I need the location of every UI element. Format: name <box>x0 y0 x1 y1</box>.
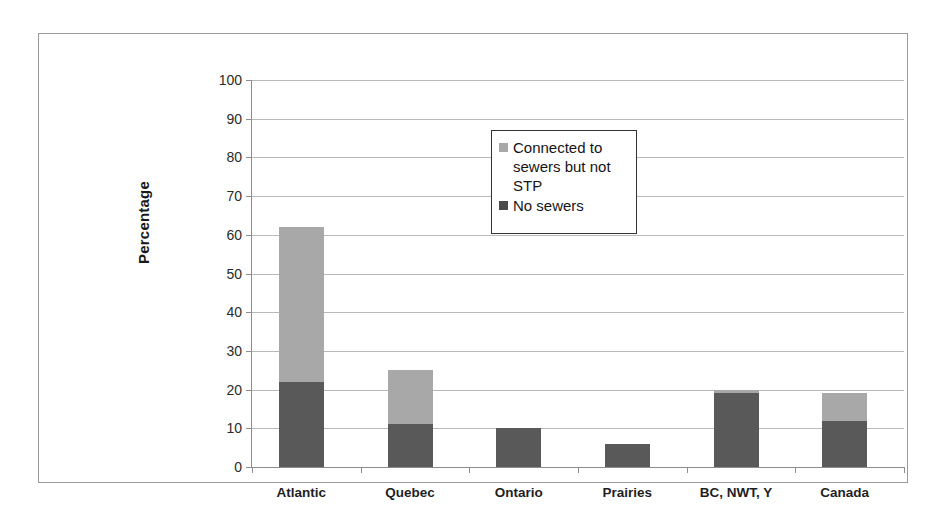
y-tick-label: 40 <box>226 304 242 320</box>
bar-segment-connected-no-stp <box>822 393 867 420</box>
legend-swatch-light-icon <box>499 143 508 152</box>
y-tick-mark <box>246 351 252 352</box>
y-tick-mark <box>246 80 252 81</box>
bar-segment-no-sewers <box>388 424 433 467</box>
y-tick-mark <box>246 274 252 275</box>
y-tick-label: 60 <box>226 227 242 243</box>
x-tick-mark <box>469 467 470 473</box>
y-tick-label: 80 <box>226 149 242 165</box>
bar-segment-no-sewers <box>822 421 867 467</box>
bar-segment-connected-no-stp <box>714 390 759 394</box>
bar-bc-nwt-y <box>714 80 759 467</box>
y-tick-mark <box>246 157 252 158</box>
gridline <box>252 428 904 429</box>
x-tick-label: Atlantic <box>277 485 327 500</box>
x-tick-label: BC, NWT, Y <box>700 485 773 500</box>
y-tick-mark <box>246 235 252 236</box>
gridline <box>252 119 904 120</box>
x-tick-label: Ontario <box>495 485 543 500</box>
gridline <box>252 274 904 275</box>
gridline <box>252 235 904 236</box>
x-tick-mark <box>687 467 688 473</box>
gridline <box>252 390 904 391</box>
legend-entry: No sewers <box>499 196 630 215</box>
gridline <box>252 312 904 313</box>
bar-segment-no-sewers <box>279 382 324 467</box>
legend-swatch-dark-icon <box>499 201 508 210</box>
y-tick-label: 10 <box>226 420 242 436</box>
y-tick-label: 70 <box>226 188 242 204</box>
legend-entry: Connected to sewers but not STP <box>499 138 630 195</box>
chart-legend: Connected to sewers but not STPNo sewers <box>491 130 637 234</box>
bar-segment-connected-no-stp <box>279 227 324 382</box>
x-tick-mark <box>361 467 362 473</box>
bar-segment-no-sewers <box>714 393 759 467</box>
x-tick-mark <box>252 467 253 473</box>
bar-canada <box>822 80 867 467</box>
y-tick-mark <box>246 196 252 197</box>
y-tick-mark <box>246 119 252 120</box>
y-tick-mark <box>246 428 252 429</box>
bar-quebec <box>388 80 433 467</box>
chart-frame: Percentage 1009080706050403020100 Atlant… <box>38 33 908 483</box>
x-tick-mark <box>904 467 905 473</box>
y-tick-label: 100 <box>219 72 242 88</box>
y-tick-label: 50 <box>226 266 242 282</box>
y-tick-label: 90 <box>226 111 242 127</box>
x-tick-mark <box>578 467 579 473</box>
x-tick-label: Canada <box>820 485 869 500</box>
legend-label: Connected to sewers but not STP <box>513 138 630 195</box>
gridline <box>252 351 904 352</box>
y-tick-label: 20 <box>226 382 242 398</box>
y-tick-label: 30 <box>226 343 242 359</box>
x-tick-mark <box>795 467 796 473</box>
bar-segment-connected-no-stp <box>388 370 433 424</box>
y-tick-label: 0 <box>234 459 242 475</box>
y-tick-mark <box>246 390 252 391</box>
bar-segment-no-sewers <box>605 444 650 467</box>
x-tick-label: Prairies <box>603 485 653 500</box>
y-axis-title: Percentage <box>135 133 152 313</box>
gridline <box>252 80 904 81</box>
bar-atlantic <box>279 80 324 467</box>
bar-segment-no-sewers <box>496 428 541 467</box>
y-tick-mark <box>246 312 252 313</box>
x-tick-label: Quebec <box>385 485 435 500</box>
legend-label: No sewers <box>513 196 584 215</box>
